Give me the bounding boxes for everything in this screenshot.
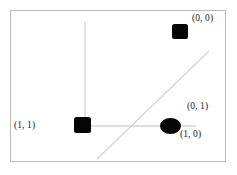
node-center[interactable] (74, 117, 91, 133)
node-top-right-label: (0, 0) (192, 13, 213, 24)
node-right-second-label-label: (1, 0) (180, 129, 201, 140)
node-right[interactable] (160, 118, 181, 134)
node-top-right[interactable] (172, 24, 188, 39)
edge-layer (0, 0, 237, 175)
figure-canvas: (0, 0)(1, 1)(0, 1)(1, 0) (0, 0, 237, 175)
node-center-label: (1, 1) (14, 120, 35, 131)
node-right-label: (0, 1) (187, 101, 208, 112)
